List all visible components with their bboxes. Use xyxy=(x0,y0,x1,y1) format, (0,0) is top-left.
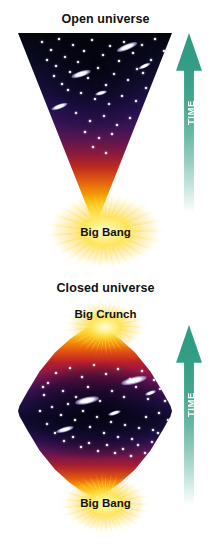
time-arrow-label-closed: TIME xyxy=(185,392,196,417)
star xyxy=(111,390,113,392)
star xyxy=(153,379,155,381)
star xyxy=(144,452,146,454)
star xyxy=(89,120,91,122)
star xyxy=(129,117,131,119)
star xyxy=(164,400,166,402)
star xyxy=(106,444,108,446)
star xyxy=(145,416,147,418)
star xyxy=(167,419,169,421)
star xyxy=(167,64,169,66)
star xyxy=(63,440,65,442)
star xyxy=(123,41,125,43)
star xyxy=(80,446,82,448)
star xyxy=(158,412,160,414)
star xyxy=(124,424,126,426)
star xyxy=(53,75,54,76)
open-universe-funnel xyxy=(18,33,172,217)
star xyxy=(39,410,41,412)
time-arrow-label-open: TIME xyxy=(185,100,196,125)
star xyxy=(75,396,77,398)
closed-universe-title: Closed universe xyxy=(0,281,211,295)
star xyxy=(96,416,98,418)
star xyxy=(151,441,153,443)
star xyxy=(61,83,63,85)
star xyxy=(50,49,51,50)
star xyxy=(89,426,91,428)
star xyxy=(67,89,68,90)
star xyxy=(87,386,89,388)
star xyxy=(109,45,111,47)
big-bang-label-closed: Big Bang xyxy=(0,497,211,509)
star xyxy=(135,100,137,102)
star xyxy=(159,388,161,390)
open-universe-title: Open universe xyxy=(0,12,211,26)
star xyxy=(111,133,113,135)
star xyxy=(72,436,74,438)
star xyxy=(102,54,104,56)
star xyxy=(87,77,89,79)
star xyxy=(118,60,120,62)
star xyxy=(105,152,107,154)
star xyxy=(103,115,105,117)
star xyxy=(163,50,165,52)
star xyxy=(130,455,132,457)
star xyxy=(148,106,150,108)
star xyxy=(141,370,143,372)
star xyxy=(43,394,45,396)
star xyxy=(88,442,90,444)
closed-universe-panel: Closed universe Big Crunch Big Bang TIME xyxy=(0,277,211,554)
big-bang-label: Big Bang xyxy=(0,226,211,238)
star xyxy=(94,98,96,100)
star xyxy=(150,59,152,61)
star xyxy=(142,72,143,73)
star xyxy=(105,373,107,375)
star xyxy=(60,414,62,416)
star xyxy=(132,52,134,54)
star xyxy=(46,423,48,425)
star xyxy=(83,50,85,52)
star xyxy=(69,367,71,369)
star xyxy=(58,38,60,40)
star xyxy=(80,92,82,94)
star xyxy=(121,95,123,97)
funnel-dark-core xyxy=(18,33,172,147)
star xyxy=(69,71,71,73)
star xyxy=(122,448,124,450)
star xyxy=(42,386,44,388)
star xyxy=(158,75,160,77)
open-universe-panel: Open universe Big Bang TIME xyxy=(0,0,211,277)
star xyxy=(72,44,74,46)
star xyxy=(97,450,99,452)
star xyxy=(157,432,159,434)
star xyxy=(75,112,77,114)
star xyxy=(137,444,139,446)
star xyxy=(116,124,118,126)
star xyxy=(67,403,69,405)
star xyxy=(105,84,107,86)
star xyxy=(154,38,156,40)
star xyxy=(103,432,105,434)
star xyxy=(157,92,159,94)
star xyxy=(114,452,116,454)
star xyxy=(84,131,86,133)
star xyxy=(131,438,133,440)
star xyxy=(47,382,49,384)
star xyxy=(145,87,147,89)
star xyxy=(98,137,100,139)
star xyxy=(117,368,119,370)
star xyxy=(55,65,57,67)
star xyxy=(92,146,94,148)
star xyxy=(46,59,48,61)
star xyxy=(41,41,43,43)
star xyxy=(74,419,76,421)
star xyxy=(55,372,57,374)
big-crunch-label: Big Crunch xyxy=(0,308,211,320)
star xyxy=(152,429,154,431)
star xyxy=(117,436,119,438)
